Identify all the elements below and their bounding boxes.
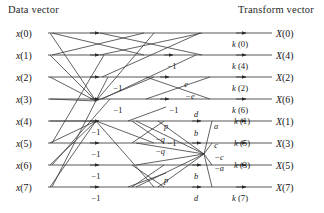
k-label-4: k (1) xyxy=(234,116,250,126)
edge-weight-16: b xyxy=(194,172,198,181)
edge-weight-5: −1 xyxy=(92,150,101,159)
input-label-5: x(5) xyxy=(16,138,32,149)
input-label-1: x(1) xyxy=(16,50,32,61)
k-label-6: k (3) xyxy=(234,160,250,170)
output-label-6: X(5) xyxy=(276,160,293,171)
edge-weight-12: d xyxy=(194,194,198,203)
edge-weight-1: −1 xyxy=(114,106,123,115)
k-label-7: k (7) xyxy=(232,193,248,203)
edge-weight-10: −e xyxy=(185,92,194,101)
output-label-0: X(0) xyxy=(276,28,293,39)
edge-weight-14: p xyxy=(164,176,168,185)
output-label-5: X(3) xyxy=(276,138,293,149)
edge-weight-11: d xyxy=(194,110,198,119)
edge-weight-2: −1 xyxy=(168,62,177,71)
edge-weight-7: −1 xyxy=(92,194,101,203)
edge-weight-4: −1 xyxy=(92,128,101,137)
input-label-7: x(7) xyxy=(16,182,32,193)
edge-weight-13: p xyxy=(164,122,168,131)
k-label-3: k (6) xyxy=(232,105,248,115)
input-label-0: x(0) xyxy=(16,28,32,39)
k-label-5: k (5) xyxy=(234,138,250,148)
edge-weight-3: −1 xyxy=(170,106,179,115)
input-label-2: x(2) xyxy=(16,72,32,83)
edge-weight-20: −c xyxy=(214,153,223,162)
output-label-2: X(2) xyxy=(276,72,293,83)
edge-weight-18: −a xyxy=(214,164,224,173)
output-label-3: X(6) xyxy=(276,94,293,105)
output-label-7: X(7) xyxy=(276,182,293,193)
edge-weight-0: −1 xyxy=(114,84,123,93)
edge-weight-15: b xyxy=(194,129,198,138)
edge-weight-9: e xyxy=(184,80,188,89)
edge-weight-8: −1 xyxy=(168,139,177,148)
edge-weight-17: a xyxy=(214,122,218,131)
signal-flow-graph: Data vector Transform vector x(0)x(1)x(2… xyxy=(0,0,324,213)
edge-weight-22: −q xyxy=(155,147,165,156)
edge-weight-6: −1 xyxy=(92,172,101,181)
input-label-4: x(4) xyxy=(16,116,32,127)
edge-weight-19: c xyxy=(214,141,218,150)
edge-weight-21: −q xyxy=(155,135,165,144)
k-label-0: k (0) xyxy=(232,39,248,49)
input-label-3: x(3) xyxy=(16,94,32,105)
k-label-2: k (2) xyxy=(232,83,248,93)
output-label-1: X(4) xyxy=(276,50,293,61)
output-label-4: X(1) xyxy=(276,116,293,127)
k-label-1: k (4) xyxy=(232,61,248,71)
input-label-6: x(6) xyxy=(16,160,32,171)
